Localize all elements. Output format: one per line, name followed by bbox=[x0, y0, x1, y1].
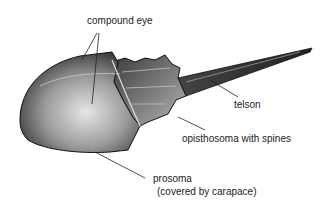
label-prosoma-note: (covered by carapace) bbox=[157, 186, 257, 197]
label-telson: telson bbox=[234, 99, 261, 110]
label-prosoma: prosoma bbox=[153, 173, 192, 184]
label-compound-eye: compound eye bbox=[87, 15, 153, 26]
label-opisthosoma: opisthosoma with spines bbox=[182, 133, 291, 144]
horseshoe-crab-diagram: compound eye telson opisthosoma with spi… bbox=[0, 0, 328, 208]
telson-shape bbox=[178, 48, 312, 96]
